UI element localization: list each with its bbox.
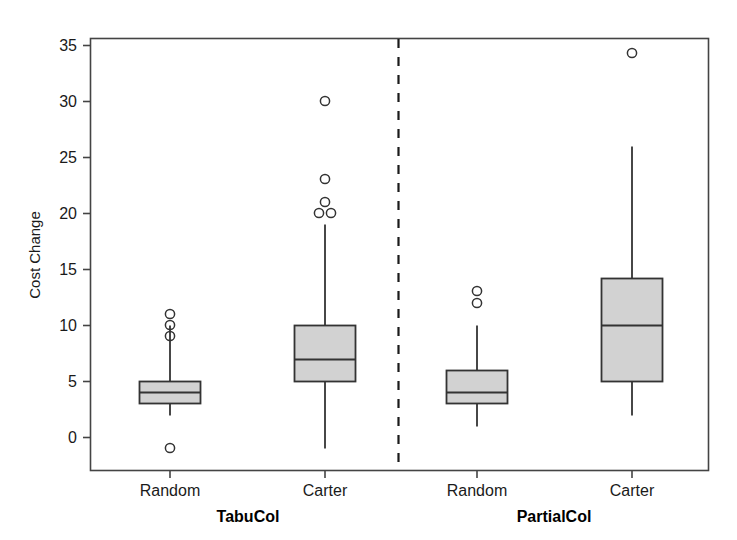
boxplot-figure: 35 30 25 20 15 10 5 0 Cost Change (0, 0, 737, 540)
y-tick-label-25: 25 (59, 149, 77, 166)
x-tick-label-random-tabucol: Random (140, 482, 200, 499)
x-tick-label-carter-partialcol: Carter (610, 482, 655, 499)
group-label-partialcol: PartialCol (517, 508, 592, 525)
x-tick-label-carter-tabucol: Carter (303, 482, 348, 499)
y-tick-label-30: 30 (59, 93, 77, 110)
box-iqr (447, 371, 508, 404)
y-tick-label-15: 15 (59, 261, 77, 278)
y-tick-label-5: 5 (68, 373, 77, 390)
box-iqr (602, 279, 663, 382)
x-tick-label-random-partialcol: Random (447, 482, 507, 499)
box-iqr (295, 326, 356, 382)
boxplot-svg: 35 30 25 20 15 10 5 0 Cost Change (0, 0, 737, 540)
y-tick-label-20: 20 (59, 205, 77, 222)
y-tick-label-35: 35 (59, 37, 77, 54)
y-tick-label-10: 10 (59, 317, 77, 334)
y-tick-label-0: 0 (68, 429, 77, 446)
y-axis-title: Cost Change (26, 211, 43, 299)
y-axis-ticks (83, 46, 90, 438)
x-axis-ticks (170, 471, 632, 478)
group-label-tabucol: TabuCol (217, 508, 280, 525)
